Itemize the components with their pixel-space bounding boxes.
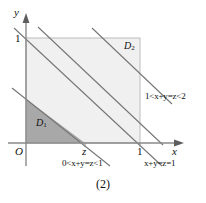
figure-container: y x O 1 z 1 D1 D2 0<x+y=z<1 x+y=z=1 1<x+… [0, 0, 206, 203]
region-label-d1: D1 [36, 118, 47, 129]
origin-label: O [15, 146, 23, 157]
x-tick-label-1: 1 [137, 146, 143, 157]
figure-caption: (2) [0, 177, 206, 192]
region-label-d2-subscript: 2 [131, 44, 135, 52]
annotation-line-unit: x+y=z=1 [144, 159, 175, 168]
region-label-d2: D2 [124, 41, 135, 52]
y-axis-arrowhead [23, 13, 30, 23]
annotation-band-upper: 1<x+y=z<2 [145, 92, 186, 101]
y-tick-label-1: 1 [15, 33, 21, 44]
plot-canvas [0, 0, 206, 203]
x-axis-label: x [172, 146, 177, 157]
annotation-band-lower: 0<x+y=z<1 [62, 159, 103, 168]
y-axis-label: y [14, 7, 19, 18]
region-label-d1-subscript: 1 [43, 121, 47, 129]
x-tick-label-z: z [82, 146, 86, 157]
